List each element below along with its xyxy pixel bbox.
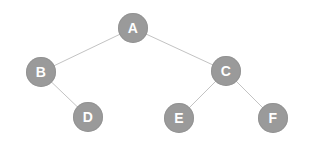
tree-node-label: F: [269, 111, 278, 125]
tree-node-e[interactable]: E: [164, 103, 194, 133]
tree-node-label: C: [221, 64, 231, 78]
tree-node-f[interactable]: F: [258, 103, 288, 133]
tree-node-b[interactable]: B: [26, 57, 56, 87]
tree-node-a[interactable]: A: [118, 13, 148, 43]
tree-diagram-canvas: ABCDEF: [0, 0, 310, 146]
tree-node-label: E: [174, 111, 184, 125]
tree-node-c[interactable]: C: [211, 56, 241, 86]
tree-node-d[interactable]: D: [73, 102, 103, 132]
tree-node-label: D: [83, 110, 93, 124]
tree-node-label: A: [128, 21, 138, 35]
tree-node-label: B: [36, 65, 46, 79]
